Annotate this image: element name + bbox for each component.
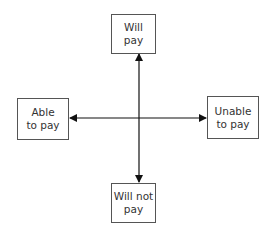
node-unable-to-pay-label: Unable to pay xyxy=(215,105,252,131)
node-unable-to-pay: Unable to pay xyxy=(207,96,259,139)
node-will-pay: Will pay xyxy=(111,14,156,54)
node-able-to-pay: Able to pay xyxy=(17,98,69,140)
node-able-to-pay-label: Able to pay xyxy=(26,106,59,132)
node-will-not-pay: Will not pay xyxy=(111,183,156,223)
node-will-pay-label: Will pay xyxy=(124,21,143,47)
node-will-not-pay-label: Will not pay xyxy=(114,190,153,216)
